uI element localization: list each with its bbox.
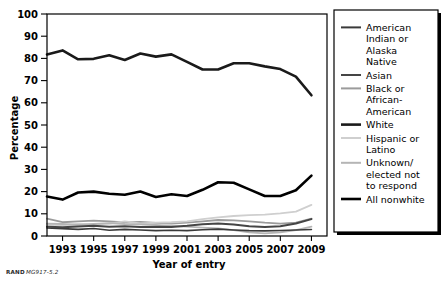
legend-item-label: Black or bbox=[366, 83, 405, 94]
y-tick-label: 40 bbox=[24, 142, 38, 153]
credit-line: RAND MG917-5.2 bbox=[6, 269, 59, 275]
y-tick-label: 30 bbox=[24, 164, 38, 175]
credit-org: RAND bbox=[6, 269, 25, 275]
legend-item-label: American bbox=[366, 106, 411, 117]
legend-item-label: Alaska bbox=[366, 45, 397, 56]
legend-item-label: to respond bbox=[366, 180, 417, 191]
y-tick-label: 20 bbox=[24, 186, 38, 197]
y-tick-label: 80 bbox=[24, 53, 38, 64]
y-tick-label: 90 bbox=[24, 31, 38, 42]
legend-item-label: Hispanic or bbox=[366, 133, 419, 144]
legend-item-label: Native bbox=[366, 56, 397, 67]
x-tick-label: 2003 bbox=[204, 244, 232, 255]
y-axis-title: Percentage bbox=[9, 96, 20, 161]
y-tick-label: 10 bbox=[24, 208, 38, 219]
x-tick-label: 2005 bbox=[235, 244, 263, 255]
legend-item-label: White bbox=[366, 119, 394, 130]
legend-item-label: elected not bbox=[366, 169, 420, 180]
y-tick-label: 50 bbox=[24, 120, 38, 131]
x-tick-label: 1999 bbox=[142, 244, 170, 255]
chart-legend: AmericanIndian orAlaskaNativeAsianBlack … bbox=[334, 10, 441, 235]
y-tick-label: 70 bbox=[24, 75, 38, 86]
legend-item-label: Latino bbox=[366, 144, 395, 155]
legend-item-label: Indian or bbox=[366, 33, 408, 44]
y-tick-label: 0 bbox=[31, 231, 38, 242]
x-axis-title: Year of entry bbox=[151, 259, 226, 270]
y-tick-label: 60 bbox=[24, 97, 38, 108]
legend-item-label: All nonwhite bbox=[366, 194, 425, 205]
x-tick-label: 2009 bbox=[298, 244, 326, 255]
legend-item-label: African- bbox=[366, 94, 403, 105]
legend-item-label: American bbox=[366, 22, 411, 33]
legend-item-label: Asian bbox=[366, 70, 392, 81]
x-tick-label: 1993 bbox=[49, 244, 77, 255]
x-tick-label: 1997 bbox=[111, 244, 139, 255]
y-tick-label: 100 bbox=[17, 9, 38, 20]
credit-reference: MG917-5.2 bbox=[26, 269, 59, 275]
x-tick-label: 2007 bbox=[266, 244, 294, 255]
chart-figure: Percentage 01020304050607080901001993199… bbox=[0, 0, 446, 285]
x-tick-label: 2001 bbox=[173, 244, 201, 255]
legend-item-label: Unknown/ bbox=[366, 157, 414, 168]
x-tick-label: 1995 bbox=[80, 244, 108, 255]
